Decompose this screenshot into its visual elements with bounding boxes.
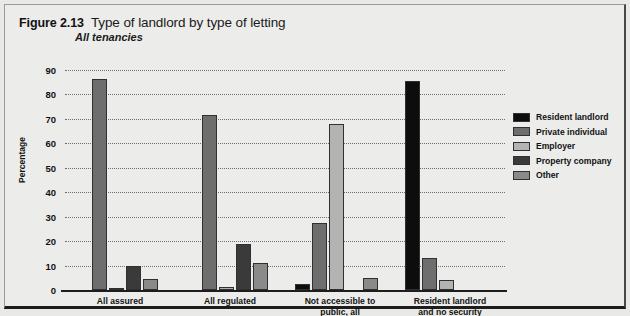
x-axis-category-label: Not accessible to public, all xyxy=(285,296,395,316)
bar xyxy=(312,223,327,290)
legend-swatch xyxy=(513,113,530,122)
bar xyxy=(143,279,158,290)
legend: Resident landlordPrivate individualEmplo… xyxy=(513,110,611,183)
legend-swatch xyxy=(513,156,530,165)
legend-swatch xyxy=(513,171,530,180)
y-axis-tick-label: 70 xyxy=(45,113,56,124)
legend-item: Property company xyxy=(513,154,611,169)
bar-group xyxy=(395,70,505,290)
legend-label: Other xyxy=(536,170,559,180)
y-axis-tick-label: 80 xyxy=(45,89,56,100)
figure-container: Figure 2.13 Type of landlord by type of … xyxy=(0,0,630,316)
bar xyxy=(202,115,217,290)
bar xyxy=(329,124,344,290)
legend-label: Private individual xyxy=(536,127,607,137)
x-axis-category-label: All regulated xyxy=(175,296,285,307)
bar xyxy=(253,263,268,290)
y-axis-tick-label: 30 xyxy=(45,211,56,222)
x-axis-category-label: Resident landlord and no security xyxy=(395,296,505,316)
legend-label: Resident landlord xyxy=(536,112,609,122)
y-axis-tick-label: 40 xyxy=(45,187,56,198)
bar xyxy=(363,278,378,290)
bar-group xyxy=(285,70,395,290)
legend-item: Employer xyxy=(513,139,611,154)
bar-group xyxy=(175,70,285,290)
y-axis-title: Percentage xyxy=(17,130,27,190)
y-axis-tick-label: 10 xyxy=(45,260,56,271)
bar xyxy=(236,244,251,290)
legend-item: Other xyxy=(513,168,611,183)
legend-item: Resident landlord xyxy=(513,110,611,125)
x-axis-category-label: All assured xyxy=(65,296,175,307)
figure-frame: Figure 2.13 Type of landlord by type of … xyxy=(4,4,626,309)
y-axis-tick-label: 50 xyxy=(45,162,56,173)
y-axis-tick-label: 90 xyxy=(45,65,56,76)
bar xyxy=(422,258,437,290)
bar xyxy=(439,280,454,290)
plot-area: 0102030405060708090 All assuredAll regul… xyxy=(65,70,505,290)
bar-group xyxy=(65,70,175,290)
y-axis-tick-label: 60 xyxy=(45,138,56,149)
y-axis-tick-label: 20 xyxy=(45,236,56,247)
x-axis-line xyxy=(61,290,507,292)
legend-swatch xyxy=(513,142,530,151)
legend-label: Employer xyxy=(536,141,575,151)
y-axis-tick-label: 0 xyxy=(51,285,56,296)
legend-label: Property company xyxy=(536,156,611,166)
legend-swatch xyxy=(513,127,530,136)
bar xyxy=(126,266,141,290)
legend-item: Private individual xyxy=(513,125,611,140)
bar xyxy=(92,79,107,290)
bar xyxy=(405,81,420,290)
